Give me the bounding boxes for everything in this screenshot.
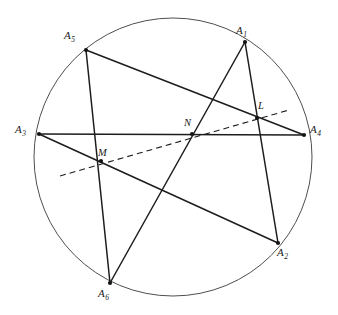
vertex-label-a1: A1 [236,25,246,36]
chord-a3-a4 [39,134,304,135]
vertex-dot-a3 [37,132,41,136]
vertex-letter-a4: A [310,123,317,135]
chord-a1-a2 [245,42,278,243]
vertex-letter-a6: A [98,287,105,299]
vertex-dot-a6 [108,281,112,285]
vertex-label-a5: A5 [64,30,74,41]
vertex-letter-a3: A [15,123,22,135]
chord-a5-a6 [86,50,110,283]
vertex-letter-a5: A [64,29,71,41]
circumcircle [34,18,312,296]
chord-group [39,42,304,283]
point-label-n: N [184,118,191,129]
vertex-dot-a1 [243,40,247,44]
vertex-dot-group [37,40,306,285]
point-label-m: M [98,148,107,159]
vertex-subscript-a5: 5 [71,35,75,44]
intersection-dot-m [99,159,103,163]
figure-canvas [0,0,338,315]
vertex-label-a2: A2 [277,247,287,258]
point-label-l: L [258,101,264,112]
intersection-dot-group [99,116,259,163]
vertex-subscript-a3: 3 [22,129,26,138]
vertex-label-a4: A4 [310,124,320,135]
vertex-subscript-a4: 4 [317,129,321,138]
vertex-label-a3: A3 [15,124,25,135]
vertex-letter-a2: A [277,246,284,258]
pascal-line [60,110,289,176]
vertex-dot-a2 [276,241,280,245]
chord-a1-a6 [110,42,245,283]
vertex-dot-a4 [302,133,306,137]
vertex-subscript-a1: 1 [243,30,247,39]
intersection-dot-n [190,132,194,136]
vertex-label-a6: A6 [98,288,108,299]
vertex-dot-a5 [84,48,88,52]
vertex-subscript-a2: 2 [284,252,288,261]
chord-a5-a4 [86,50,304,135]
intersection-dot-l [255,116,259,120]
vertex-subscript-a6: 6 [105,293,109,302]
chord-a3-a2 [39,134,278,243]
geometry-figure: A1 A2 A3 A4 A5 A6 L M N [0,0,338,315]
vertex-letter-a1: A [236,24,243,36]
